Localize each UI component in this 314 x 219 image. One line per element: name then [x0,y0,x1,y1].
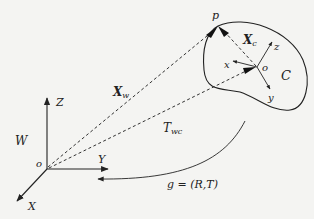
camera-origin-arrowhead-icon [243,67,256,74]
point-label: p [212,9,219,22]
world-origin-label: o [36,158,42,169]
camera-vector-arrowhead-icon [218,26,229,37]
camera-x-label: x [224,59,230,70]
world-z-label: Z [55,96,64,109]
camera-z-label: z [273,41,280,52]
camera-y-label: y [267,92,274,103]
camera-x-axis [233,61,257,67]
world-y-label: Y [98,153,107,166]
camera-body-outline [204,22,308,110]
transform-label: Twc [163,121,183,136]
camera-frame-label: C [281,68,291,83]
world-x-axis [17,169,47,201]
camera-origin-line [49,69,250,168]
world-frame-label: W [15,134,29,148]
frame-transformation-diagram: p Xc z x o y C Xw Twc g = (R,T) Z W o Y … [0,0,314,219]
transform-equation: g = (R,T) [167,178,218,191]
camera-vector-label: Xc [242,33,257,48]
world-vector-label: Xw [112,85,129,100]
camera-origin-label: o [262,62,268,73]
world-x-label: X [27,200,37,213]
